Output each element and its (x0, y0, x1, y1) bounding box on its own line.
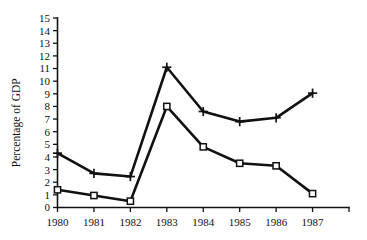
x-axis-tick-labels: 19801981198219831984198519861987 (47, 216, 325, 228)
data-point-marker-square (91, 192, 97, 198)
y-axis-title: Percentage of GDP (10, 78, 23, 167)
y-axis-group: 0123456789101112131415 (39, 12, 58, 214)
y-tick-label: 14 (39, 25, 51, 37)
y-tick-label: 13 (39, 37, 51, 49)
chart-canvas: 0123456789101112131415 19801981198219831… (0, 0, 367, 240)
y-tick-label: 9 (45, 88, 51, 100)
series-line-lower-series (58, 106, 313, 201)
y-tick-label: 10 (39, 75, 51, 87)
data-point-marker-square (164, 103, 170, 109)
x-tick-label: 1981 (83, 216, 105, 228)
series-line-upper-series (58, 67, 313, 176)
x-tick-label: 1987 (302, 216, 325, 228)
x-tick-label: 1982 (119, 216, 141, 228)
y-tick-label: 12 (39, 50, 50, 62)
y-tick-label: 4 (45, 151, 51, 163)
y-tick-label: 0 (45, 201, 51, 213)
y-tick-label: 7 (45, 113, 51, 125)
y-tick-label: 5 (45, 138, 51, 150)
x-tick-label: 1986 (265, 216, 288, 228)
y-tick-label: 6 (45, 126, 51, 138)
data-point-marker-square (200, 144, 206, 150)
y-tick-label: 1 (45, 189, 51, 201)
data-point-marker-plus (126, 172, 135, 181)
x-tick-label: 1980 (47, 216, 70, 228)
y-tick-label: 2 (45, 176, 51, 188)
data-point-marker-square (273, 163, 279, 169)
series-lines (58, 67, 313, 201)
data-point-marker-square (309, 191, 315, 197)
y-tick-label: 15 (39, 12, 51, 24)
series-markers (53, 63, 317, 205)
y-tick-label: 11 (39, 62, 50, 74)
x-axis-group: 19801981198219831984198519861987 (47, 208, 350, 229)
data-point-marker-square (127, 198, 133, 204)
y-tick-label: 3 (45, 164, 51, 176)
x-tick-label: 1984 (192, 216, 215, 228)
data-point-marker-square (54, 187, 60, 193)
data-point-marker-square (237, 160, 243, 166)
x-tick-label: 1985 (229, 216, 252, 228)
x-tick-label: 1983 (156, 216, 179, 228)
data-point-marker-plus (235, 117, 244, 126)
y-axis-tick-labels: 0123456789101112131415 (39, 12, 51, 214)
line-chart: 0123456789101112131415 19801981198219831… (0, 0, 367, 240)
y-tick-label: 8 (45, 100, 51, 112)
